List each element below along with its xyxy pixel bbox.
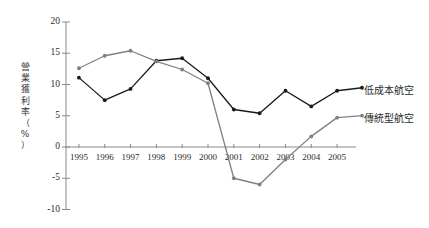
series-line (79, 51, 337, 185)
data-point (309, 104, 313, 108)
data-point (284, 89, 288, 93)
data-point (284, 158, 288, 162)
data-point (103, 98, 107, 102)
legend-leader-lines (337, 86, 364, 118)
legend-leader-low-cost (337, 88, 362, 91)
data-point (77, 76, 81, 80)
data-point (180, 56, 184, 60)
data-point (154, 59, 158, 63)
data-point (232, 108, 236, 112)
data-point (103, 54, 107, 58)
data-point (258, 111, 262, 115)
data-point (232, 176, 236, 180)
data-point (206, 81, 210, 85)
operating-margin-line-chart: 營 業 獲 利 率 （ % ） 20151050-5-10 1995199619… (0, 0, 429, 228)
data-point (258, 183, 262, 187)
data-point (129, 49, 133, 53)
series-line (79, 58, 337, 113)
axis-lines (62, 22, 356, 210)
data-point (206, 76, 210, 80)
data-point (129, 87, 133, 91)
legend-item-low-cost[interactable]: 低成本航空 (364, 82, 414, 97)
data-point (77, 66, 81, 70)
legend-leader-legacy (337, 116, 362, 118)
data-point (180, 68, 184, 72)
legend-item-legacy[interactable]: 傳統型航空 (364, 110, 414, 125)
data-point (309, 134, 313, 138)
series-group (77, 49, 339, 187)
